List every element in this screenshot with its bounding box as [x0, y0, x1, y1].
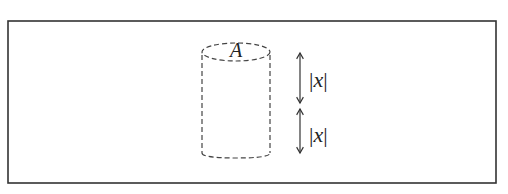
cylinder-bottom-arc — [202, 153, 270, 158]
diagram-canvas: A |x| |x| — [0, 0, 508, 194]
dimension-arrow-upper: |x| — [300, 53, 328, 103]
area-label: A — [228, 39, 243, 61]
distance-label-upper: |x| — [309, 67, 328, 92]
frame-border — [8, 21, 496, 183]
dimension-arrow-lower: |x| — [300, 109, 328, 153]
distance-label-lower: |x| — [309, 122, 328, 147]
